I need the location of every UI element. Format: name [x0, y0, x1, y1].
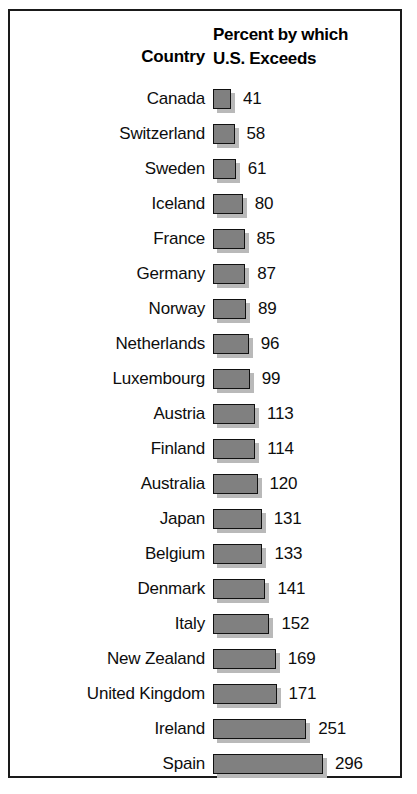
bar-row: Australia120 — [10, 468, 400, 503]
bar-row-label: Sweden — [10, 159, 205, 179]
bar-value-label: 296 — [335, 754, 363, 774]
bar-row-label: Denmark — [10, 579, 205, 599]
bar-row: Denmark141 — [10, 573, 400, 608]
bar-row-label: France — [10, 229, 205, 249]
bar-rows: Canada41Switzerland58Sweden61Iceland80Fr… — [10, 83, 400, 783]
bar — [213, 509, 262, 529]
bar-value-label: 120 — [270, 474, 298, 494]
column-header-country: Country — [10, 47, 205, 67]
bar — [213, 544, 262, 564]
bar — [213, 194, 243, 214]
bar-value-label: 114 — [267, 439, 294, 459]
bar-value-label: 133 — [274, 544, 302, 564]
bar — [213, 229, 245, 249]
bar — [213, 159, 236, 179]
bar — [213, 614, 269, 634]
bar-row: Iceland80 — [10, 188, 400, 223]
bar-row: United Kingdom171 — [10, 678, 400, 713]
bar — [213, 89, 231, 109]
bar-value-label: 141 — [277, 579, 305, 599]
bar-value-label: 131 — [274, 509, 302, 529]
bar-row-label: Austria — [10, 404, 205, 424]
bar-value-label: 87 — [257, 264, 276, 284]
bar — [213, 474, 258, 494]
bar-value-label: 80 — [255, 194, 274, 214]
bar-row-label: Spain — [10, 754, 205, 774]
bar-value-label: 61 — [248, 159, 267, 179]
bar-row-label: Italy — [10, 614, 205, 634]
bar-row: France85 — [10, 223, 400, 258]
bar-row-label: Belgium — [10, 544, 205, 564]
bar-value-label: 58 — [247, 124, 266, 144]
bar-row: Norway89 — [10, 293, 400, 328]
bar-value-label: 85 — [257, 229, 276, 249]
bar-row: Finland114 — [10, 433, 400, 468]
bar-value-label: 89 — [258, 299, 277, 319]
bar-row: Luxembourg99 — [10, 363, 400, 398]
bar-value-label: 99 — [262, 369, 281, 389]
chart-header: Country Percent by which U.S. Exceeds — [10, 19, 400, 75]
column-header-percent: Percent by which U.S. Exceeds — [213, 23, 398, 71]
bar-row-label: Iceland — [10, 194, 205, 214]
bar — [213, 264, 245, 284]
bar-row-label: Netherlands — [10, 334, 205, 354]
bar-value-label: 152 — [281, 614, 309, 634]
bar-row: New Zealand169 — [10, 643, 400, 678]
bar-value-label: 41 — [243, 89, 262, 109]
bar — [213, 124, 235, 144]
bar-row: Austria113 — [10, 398, 400, 433]
bar-row: Germany87 — [10, 258, 400, 293]
bar-row-label: Norway — [10, 299, 205, 319]
bar-row: Canada41 — [10, 83, 400, 118]
bar-row-label: New Zealand — [10, 649, 205, 669]
bar-row-label: United Kingdom — [10, 684, 205, 704]
bar-row: Italy152 — [10, 608, 400, 643]
bar-value-label: 251 — [318, 719, 346, 739]
bar-value-label: 96 — [261, 334, 280, 354]
column-header-percent-line1: Percent by which — [213, 23, 398, 47]
bar-row-label: Finland — [10, 439, 205, 459]
bar-row: Netherlands96 — [10, 328, 400, 363]
bar-row: Spain296 — [10, 748, 400, 783]
bar — [213, 439, 255, 459]
bar — [213, 579, 265, 599]
bar-row-label: Luxembourg — [10, 369, 205, 389]
bar-row-label: Japan — [10, 509, 205, 529]
bar — [213, 719, 306, 739]
bar-row-label: Switzerland — [10, 124, 205, 144]
bar-row-label: Ireland — [10, 719, 205, 739]
bar — [213, 754, 323, 774]
bar — [213, 649, 276, 669]
bar-row-label: Australia — [10, 474, 205, 494]
chart-frame: Country Percent by which U.S. Exceeds Ca… — [8, 9, 402, 778]
bar-value-label: 113 — [267, 404, 294, 424]
bar-row: Ireland251 — [10, 713, 400, 748]
bar-row: Belgium133 — [10, 538, 400, 573]
bar-row-label: Germany — [10, 264, 205, 284]
bar — [213, 404, 255, 424]
bar — [213, 369, 250, 389]
bar — [213, 299, 246, 319]
column-header-percent-line2: U.S. Exceeds — [213, 47, 398, 71]
bar-row: Japan131 — [10, 503, 400, 538]
bar-value-label: 169 — [288, 649, 316, 669]
bar-row: Switzerland58 — [10, 118, 400, 153]
bar — [213, 684, 277, 704]
bar — [213, 334, 249, 354]
bar-row-label: Canada — [10, 89, 205, 109]
bar-value-label: 171 — [289, 684, 317, 704]
bar-row: Sweden61 — [10, 153, 400, 188]
